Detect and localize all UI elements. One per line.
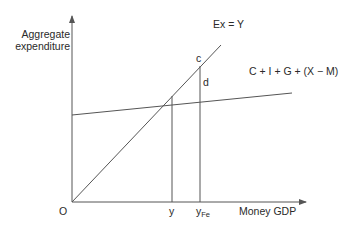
aggregate-expenditure-line bbox=[72, 93, 292, 115]
point-c-label: c bbox=[196, 52, 201, 64]
y-axis-label: Aggregate expenditure bbox=[15, 28, 70, 52]
ae-line-label: C + I + G + (X − M) bbox=[249, 65, 338, 77]
yfe-subscript: Fe bbox=[201, 210, 210, 219]
point-d-label: d bbox=[203, 76, 209, 88]
y-axis-label-line1: Aggregate bbox=[15, 28, 70, 40]
x-axis-label: Money GDP bbox=[239, 205, 296, 217]
x-tick-yfe-label: yFe bbox=[196, 205, 210, 219]
ex-equals-y-label: Ex = Y bbox=[213, 18, 244, 30]
y-axis-label-line2: expenditure bbox=[15, 40, 70, 52]
ex-equals-y-line bbox=[72, 45, 221, 202]
x-tick-y-label: y bbox=[169, 205, 174, 217]
origin-label: O bbox=[59, 205, 67, 217]
